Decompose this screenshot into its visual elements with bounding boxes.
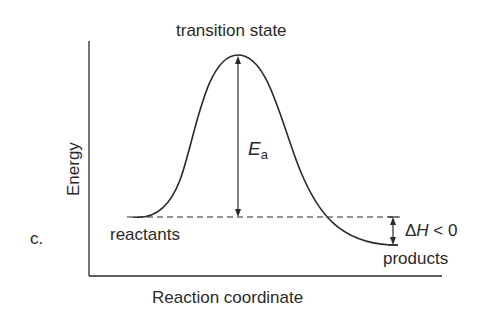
y-axis-label: Energy [64,142,84,196]
enthalpy-symbol: H [416,221,428,240]
products-label: products [383,250,448,267]
activation-energy-label: Ea [248,139,268,158]
enthalpy-relation: < 0 [429,221,458,240]
activation-energy-subscript: a [261,147,268,162]
transition-state-label: transition state [176,22,287,39]
delta-symbol: Δ [405,221,416,240]
x-axis-label: Reaction coordinate [152,289,303,306]
enthalpy-change-label: ΔH < 0 [405,222,457,239]
reactants-label: reactants [110,226,180,243]
panel-label: c. [30,230,43,247]
activation-energy-symbol: E [248,138,261,159]
